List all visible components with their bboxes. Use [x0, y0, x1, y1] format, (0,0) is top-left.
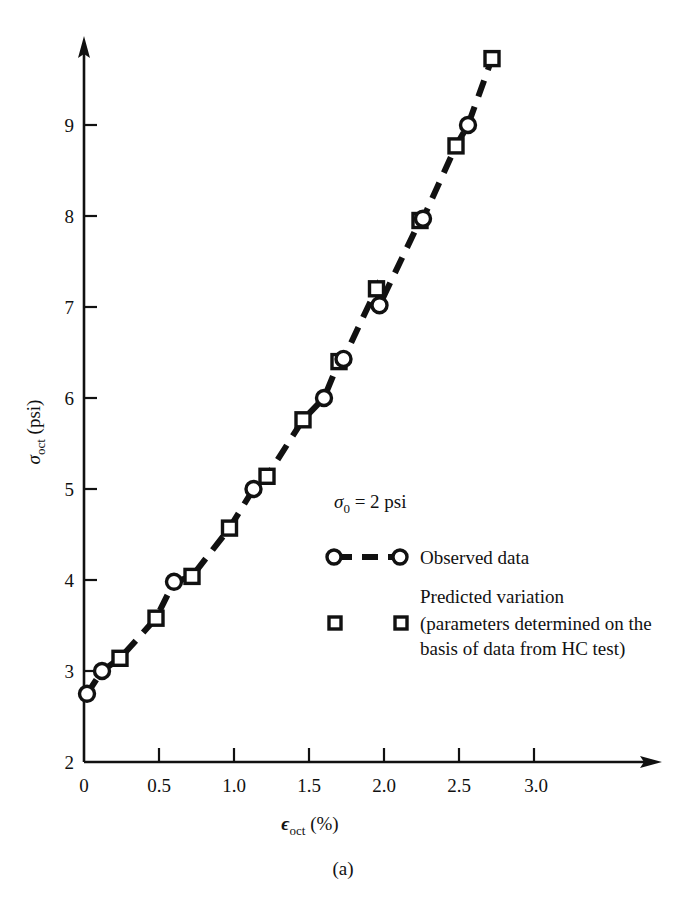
legend-circle-marker-right: [393, 550, 407, 564]
legend-square-marker-right: [395, 617, 407, 629]
data-point-circle: [80, 686, 95, 701]
svg-text:ϵoct (%): ϵoct (%): [281, 813, 338, 838]
data-point-square: [149, 611, 163, 625]
figure-container: 3 4 5 6 7 8 9 2 0 0.5 1.0: [0, 0, 686, 902]
data-point-circle: [317, 391, 332, 406]
y-tick-label-8: 8: [65, 206, 75, 227]
annotation-text: = 2 psi: [355, 491, 407, 512]
legend-label-predicted-line3: basis of data from HC test): [420, 638, 625, 660]
y-axis-title-unit: (psi): [23, 400, 45, 435]
x-tick-label-0: 0: [79, 775, 89, 796]
y-tick-label-2: 2: [65, 752, 75, 773]
data-point-circle: [167, 574, 182, 589]
legend-item-predicted-variation: Predicted variation (parameters determin…: [329, 586, 652, 660]
data-point-square: [260, 469, 274, 483]
svg-text:σoct (psi): σoct (psi): [23, 400, 48, 465]
x-axis-title-sub: oct: [290, 823, 306, 838]
observed-data-markers: [80, 118, 476, 702]
y-tick-group: 3 4 5 6 7 8 9 2: [65, 115, 98, 773]
legend-square-marker-left: [329, 617, 341, 629]
legend-item-observed-data: Observed data: [327, 547, 530, 568]
x-tick-group: 0 0.5 1.0 1.5 2.0 2.5 3.0: [79, 748, 548, 796]
data-point-circle: [416, 211, 431, 226]
chart-canvas: 3 4 5 6 7 8 9 2 0 0.5 1.0: [0, 0, 686, 902]
y-tick-label-6: 6: [65, 388, 75, 409]
figure-caption: (a): [332, 858, 353, 880]
data-point-circle: [246, 482, 261, 497]
data-point-circle: [461, 118, 476, 133]
y-tick-label-4: 4: [65, 570, 75, 591]
x-tick-label-2-5: 2.5: [447, 775, 471, 796]
legend-label-predicted-line1: Predicted variation: [420, 586, 565, 607]
data-point-square: [223, 521, 237, 535]
x-axis-title-unit: (%): [310, 813, 338, 835]
y-tick-label-7: 7: [65, 297, 75, 318]
data-point-square: [370, 282, 384, 296]
x-tick-label-1-5: 1.5: [297, 775, 321, 796]
data-point-square: [449, 139, 463, 153]
data-point-square: [296, 413, 310, 427]
data-point-circle: [336, 351, 351, 366]
svg-text:σ0 = 2 psi: σ0 = 2 psi: [334, 491, 407, 516]
legend-circle-marker-left: [327, 550, 341, 564]
data-point-square: [113, 651, 127, 665]
x-tick-label-2-0: 2.0: [372, 775, 396, 796]
y-tick-label-9: 9: [65, 115, 75, 136]
legend-label-predicted-line2: (parameters determined on the: [420, 613, 652, 635]
legend-label-observed-data: Observed data: [420, 547, 530, 568]
y-tick-label-3: 3: [65, 661, 75, 682]
y-tick-label-5: 5: [65, 479, 75, 500]
data-point-circle: [95, 664, 110, 679]
x-tick-label-0-5: 0.5: [147, 775, 171, 796]
data-point-circle: [372, 298, 387, 313]
y-axis-title-sub: oct: [33, 439, 48, 455]
y-axis-title: σoct (psi): [23, 400, 48, 465]
x-tick-label-1-0: 1.0: [222, 775, 246, 796]
data-point-square: [185, 569, 199, 583]
x-axis: [84, 756, 662, 768]
x-tick-label-3-0: 3.0: [524, 775, 548, 796]
data-point-square: [485, 52, 499, 66]
sigma-zero-annotation: σ0 = 2 psi: [334, 491, 407, 516]
x-axis-title: ϵoct (%): [281, 813, 338, 838]
